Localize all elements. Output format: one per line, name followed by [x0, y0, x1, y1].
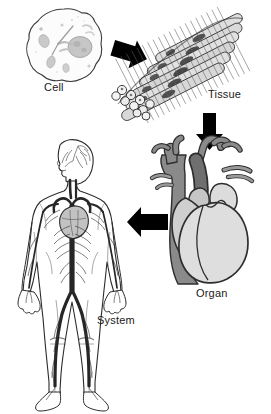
body-heart [60, 206, 89, 239]
label-tissue: Tissue [208, 88, 241, 100]
label-cell: Cell [44, 81, 64, 93]
tissue-illustration [112, 7, 250, 123]
label-organ: Organ [196, 287, 228, 299]
biological-organization-diagram: Cell Tissue Organ System [0, 0, 271, 414]
cell-illustration [27, 9, 102, 82]
arrow-organ-to-system-icon [127, 207, 168, 237]
label-system: System [97, 314, 135, 326]
arrow-cell-to-tissue-icon [108, 34, 151, 72]
organ-heart-illustration [152, 138, 252, 284]
diagram-artwork [0, 0, 271, 414]
system-body-illustration [18, 140, 126, 411]
